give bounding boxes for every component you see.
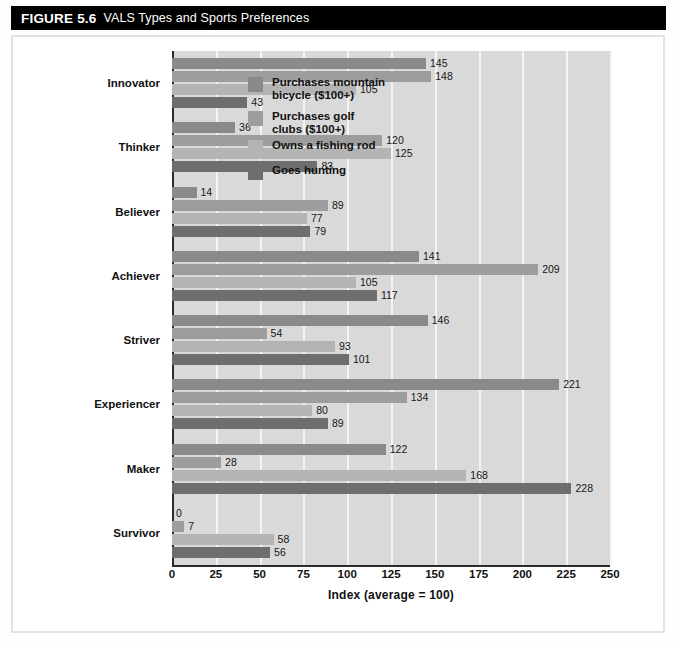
legend-label: Owns a fishing rod: [272, 139, 376, 152]
bar-value-label: 134: [407, 392, 429, 403]
bar[interactable]: [172, 379, 559, 390]
legend-item[interactable]: Goes hunting: [248, 164, 346, 180]
x-tick-label: 225: [557, 568, 576, 580]
legend-item[interactable]: Owns a fishing rod: [248, 139, 376, 155]
bar-chart: 1451481054336120125831489777914120910511…: [0, 0, 677, 647]
bar-value-label: 228: [571, 483, 593, 494]
bar-group: 12228168228: [172, 444, 610, 494]
category-label-striver: Striver: [124, 334, 160, 346]
bar[interactable]: [172, 315, 428, 326]
bar-group: 14897779: [172, 187, 610, 237]
category-label-maker: Maker: [127, 463, 160, 475]
bar-value-label: 54: [267, 328, 283, 339]
bar-value-label: 93: [335, 341, 351, 352]
bar[interactable]: [172, 290, 377, 301]
bar-value-label: 77: [307, 213, 323, 224]
bar-value-label: 101: [349, 354, 371, 365]
bar-value-label: 146: [428, 315, 450, 326]
bar[interactable]: [172, 444, 386, 455]
category-axis: InnovatorThinkerBelieverAchieverStriverE…: [0, 51, 172, 565]
bar-group: 141209105117: [172, 251, 610, 301]
bar-value-label: 221: [559, 379, 581, 390]
bar[interactable]: [172, 328, 267, 339]
x-tick-label: 25: [209, 568, 222, 580]
figure-page: FIGURE 5.6 VALS Types and Sports Prefere…: [0, 0, 677, 647]
bar-group: 2211348089: [172, 379, 610, 429]
bar[interactable]: [172, 547, 270, 558]
x-tick-label: 200: [513, 568, 532, 580]
bar[interactable]: [172, 470, 466, 481]
bar[interactable]: [172, 521, 184, 532]
x-tick-label: 250: [600, 568, 619, 580]
legend-label: Goes hunting: [272, 164, 346, 177]
bar[interactable]: [172, 405, 312, 416]
x-tick-label: 150: [425, 568, 444, 580]
bar-value-label: 89: [328, 200, 344, 211]
bar-value-label: 122: [386, 444, 408, 455]
legend-label: Purchases golf clubs ($100+): [272, 110, 354, 135]
bar-value-label: 209: [538, 264, 560, 275]
category-label-thinker: Thinker: [118, 141, 160, 153]
category-label-experiencer: Experiencer: [94, 398, 160, 410]
legend-item[interactable]: Purchases golf clubs ($100+): [248, 110, 354, 135]
legend-swatch-icon: [248, 111, 263, 126]
bar-value-label: 0: [172, 508, 182, 519]
bar[interactable]: [172, 457, 221, 468]
bar-value-label: 148: [431, 71, 453, 82]
legend-swatch-icon: [248, 77, 263, 92]
bar-group: 075856: [172, 508, 610, 558]
bar[interactable]: [172, 97, 247, 108]
bar[interactable]: [172, 277, 356, 288]
bar-value-label: 79: [310, 226, 326, 237]
x-tick-label: 50: [253, 568, 266, 580]
legend-swatch-icon: [248, 140, 263, 155]
chart-legend: Purchases mountain bicycle ($100+)Purcha…: [248, 76, 433, 183]
legend-label: Purchases mountain bicycle ($100+): [272, 76, 385, 101]
category-label-believer: Believer: [115, 206, 160, 218]
bar-value-label: 141: [419, 251, 441, 262]
bar[interactable]: [172, 354, 349, 365]
bar[interactable]: [172, 392, 407, 403]
bar-value-label: 56: [270, 547, 286, 558]
bar-group: 1465493101: [172, 315, 610, 365]
bar-value-label: 168: [466, 470, 488, 481]
gridline: [610, 51, 612, 565]
category-label-innovator: Innovator: [108, 77, 160, 89]
bar[interactable]: [172, 418, 328, 429]
bar-value-label: 7: [184, 521, 194, 532]
bar[interactable]: [172, 251, 419, 262]
bar[interactable]: [172, 213, 307, 224]
bar[interactable]: [172, 534, 274, 545]
bar[interactable]: [172, 264, 538, 275]
bar[interactable]: [172, 187, 197, 198]
bar[interactable]: [172, 200, 328, 211]
x-axis-title: Index (average = 100): [172, 588, 610, 602]
x-axis-ticks: 0255075100125150175200225250: [172, 568, 614, 584]
bar-value-label: 89: [328, 418, 344, 429]
bar-value-label: 80: [312, 405, 328, 416]
legend-swatch-icon: [248, 165, 263, 180]
bar[interactable]: [172, 226, 310, 237]
category-label-survivor: Survivor: [113, 527, 160, 539]
x-tick-label: 0: [169, 568, 175, 580]
bar[interactable]: [172, 483, 571, 494]
x-tick-label: 100: [338, 568, 357, 580]
x-tick-label: 75: [297, 568, 310, 580]
bar[interactable]: [172, 122, 235, 133]
x-tick-label: 175: [469, 568, 488, 580]
bar[interactable]: [172, 341, 335, 352]
bar[interactable]: [172, 58, 426, 69]
bar-value-label: 145: [426, 58, 448, 69]
x-tick-label: 125: [381, 568, 400, 580]
bar-value-label: 14: [197, 187, 213, 198]
category-label-achiever: Achiever: [111, 270, 160, 282]
bar-value-label: 58: [274, 534, 290, 545]
legend-item[interactable]: Purchases mountain bicycle ($100+): [248, 76, 385, 101]
bar-value-label: 117: [377, 290, 398, 301]
bar-value-label: 105: [356, 277, 378, 288]
bar-value-label: 28: [221, 457, 237, 468]
